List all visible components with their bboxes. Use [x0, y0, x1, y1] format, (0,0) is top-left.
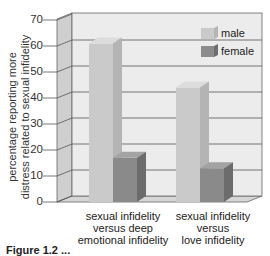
- y-axis-label-line-1: percentage reporting more: [6, 32, 19, 202]
- bar-female-2: [200, 162, 233, 202]
- y-tick-30: 30: [27, 117, 43, 129]
- y-tick-10: 10: [27, 169, 43, 181]
- x-category-2-line-2: versus: [163, 222, 263, 234]
- y-tick-60: 60: [27, 39, 43, 51]
- figure-caption-partial: Figure 1.2 ...: [6, 244, 70, 256]
- bar-female-1: [113, 152, 146, 202]
- y-tick-50: 50: [27, 65, 43, 77]
- x-category-1-line-1: sexual infidelity: [68, 210, 178, 222]
- x-category-1: sexual infidelity versus deep emotional …: [68, 210, 178, 246]
- x-category-2: sexual infidelity versus love infidelity: [163, 210, 263, 246]
- x-category-2-line-3: love infidelity: [163, 234, 263, 246]
- y-tick-20: 20: [27, 143, 43, 155]
- y-tick-0: 0: [27, 195, 43, 207]
- x-category-1-line-3: emotional infidelity: [68, 234, 178, 246]
- y-tick-40: 40: [27, 91, 43, 103]
- x-category-2-line-1: sexual infidelity: [163, 210, 263, 222]
- legend-female: female: [221, 45, 254, 57]
- y-tick-70: 70: [27, 13, 43, 25]
- legend-male: male: [221, 27, 245, 39]
- x-category-1-line-2: versus deep: [68, 222, 178, 234]
